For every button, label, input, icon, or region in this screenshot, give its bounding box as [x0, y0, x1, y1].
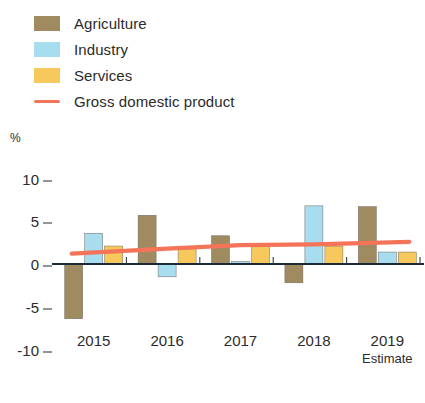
x-tick-2015: 2015	[77, 332, 110, 349]
y-tick-5: 5	[0, 213, 52, 230]
y-tick-label: 5	[31, 213, 39, 230]
legend-item-agriculture: Agriculture	[34, 10, 364, 36]
y-tick-label: -10	[17, 341, 39, 358]
bar-services-2015	[105, 246, 123, 264]
y-tick-label: 10	[22, 170, 39, 187]
bar-services-2019	[398, 252, 416, 264]
chart-figure: Agriculture Industry Services Gross dome…	[0, 0, 425, 403]
y-tick-0: 0	[0, 256, 52, 273]
y-tick-mark	[43, 266, 52, 267]
y-axis-unit-label: %	[10, 131, 21, 145]
agriculture-swatch-icon	[34, 16, 60, 31]
industry-swatch-icon	[34, 42, 60, 57]
plot-area: % 1050-5-10 20152016201720182019Estimate	[0, 125, 425, 403]
bar-industry-2015	[85, 233, 103, 264]
x-tick-2019: 2019Estimate	[362, 332, 413, 366]
bar-industry-2016	[158, 264, 176, 277]
services-swatch-icon	[34, 68, 60, 83]
x-tick-label: 2018	[297, 332, 330, 349]
bar-services-2018	[325, 246, 343, 264]
x-tick-2016: 2016	[150, 332, 183, 349]
legend-item-gdp: Gross domestic product	[34, 88, 364, 114]
y-tick-neg5: -5	[0, 298, 52, 315]
gdp-line-swatch-icon	[34, 94, 60, 109]
legend-label-gdp: Gross domestic product	[74, 93, 235, 110]
legend-item-industry: Industry	[34, 36, 364, 62]
x-tick-label: 2015	[77, 332, 110, 349]
bar-agriculture-2016	[138, 215, 156, 264]
chart-legend: Agriculture Industry Services Gross dome…	[34, 10, 364, 114]
y-tick-mark	[43, 308, 52, 309]
legend-label-industry: Industry	[74, 41, 128, 58]
y-tick-mark	[43, 180, 52, 181]
x-tick-2018: 2018	[297, 332, 330, 349]
bar-services-2017	[252, 244, 270, 264]
y-tick-label: 0	[31, 256, 39, 273]
x-tick-label: 2019	[371, 332, 404, 349]
x-tick-label: 2017	[224, 332, 257, 349]
bar-industry-2018	[305, 206, 323, 264]
bar-agriculture-2017	[212, 236, 230, 264]
x-tick-label: 2016	[150, 332, 183, 349]
y-tick-mark	[43, 351, 52, 352]
y-tick-label: -5	[26, 298, 39, 315]
y-tick-neg10: -10	[0, 341, 52, 358]
legend-label-agriculture: Agriculture	[74, 15, 147, 32]
legend-label-services: Services	[74, 67, 132, 84]
legend-item-services: Services	[34, 62, 364, 88]
bar-agriculture-2015	[65, 264, 83, 319]
bar-industry-2019	[378, 252, 396, 264]
bar-agriculture-2018	[285, 264, 303, 283]
x-tick-2017: 2017	[224, 332, 257, 349]
x-tick-note: Estimate	[362, 351, 413, 366]
bar-agriculture-2019	[358, 207, 376, 264]
y-tick-mark	[43, 223, 52, 224]
y-tick-10: 10	[0, 170, 52, 187]
